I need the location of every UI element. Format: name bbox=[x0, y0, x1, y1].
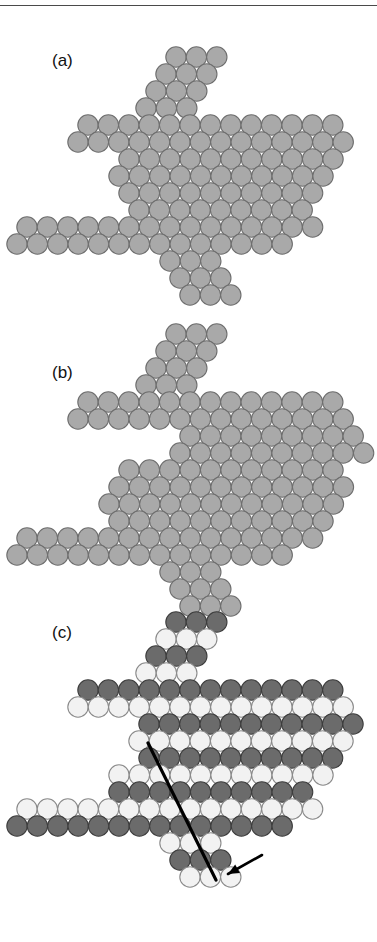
atom-circle bbox=[109, 234, 129, 254]
atom-circle bbox=[200, 285, 220, 305]
atom-circle bbox=[48, 545, 68, 565]
atom-circle bbox=[231, 234, 251, 254]
atom-circle bbox=[302, 528, 322, 548]
atom-circle bbox=[129, 409, 149, 429]
atom-circle bbox=[129, 816, 149, 836]
atom-circle bbox=[88, 132, 108, 152]
atom-circle bbox=[48, 234, 68, 254]
atom-circle bbox=[180, 867, 200, 887]
atom-circle bbox=[68, 545, 88, 565]
atom-circle bbox=[109, 816, 129, 836]
atom-circle bbox=[252, 234, 272, 254]
atom-circle bbox=[68, 816, 88, 836]
atom-circle bbox=[313, 765, 333, 785]
atom-circle bbox=[68, 409, 88, 429]
atom-circle bbox=[129, 234, 149, 254]
atom-circle bbox=[221, 285, 241, 305]
atom-circle bbox=[129, 545, 149, 565]
atom-circle bbox=[109, 697, 129, 717]
atom-group-a bbox=[7, 47, 354, 305]
atom-group-c bbox=[7, 612, 363, 887]
atom-circle bbox=[272, 234, 292, 254]
atom-circle bbox=[109, 409, 129, 429]
atom-circle bbox=[88, 234, 108, 254]
atom-circle bbox=[88, 816, 108, 836]
atom-circle bbox=[180, 285, 200, 305]
atom-circle bbox=[272, 545, 292, 565]
atom-circle bbox=[27, 816, 47, 836]
atom-circle bbox=[7, 816, 27, 836]
atom-circle bbox=[68, 697, 88, 717]
atom-circle bbox=[68, 234, 88, 254]
atom-circle bbox=[88, 545, 108, 565]
atom-circle bbox=[88, 697, 108, 717]
atom-circle bbox=[221, 596, 241, 616]
atom-lattice-canvas bbox=[0, 0, 377, 942]
atom-circle bbox=[302, 217, 322, 237]
atom-circle bbox=[48, 816, 68, 836]
atom-circle bbox=[252, 545, 272, 565]
atom-circle bbox=[109, 545, 129, 565]
atom-circle bbox=[252, 816, 272, 836]
atom-circle bbox=[231, 816, 251, 836]
atom-circle bbox=[231, 545, 251, 565]
atom-circle bbox=[149, 409, 169, 429]
atom-circle bbox=[302, 799, 322, 819]
atom-circle bbox=[353, 443, 373, 463]
figure-root: (a) (b) (c) bbox=[0, 0, 377, 942]
atom-circle bbox=[7, 545, 27, 565]
atom-circle bbox=[7, 234, 27, 254]
atom-circle bbox=[88, 409, 108, 429]
atom-circle bbox=[68, 132, 88, 152]
atom-circle bbox=[272, 816, 292, 836]
atom-circle bbox=[27, 545, 47, 565]
atom-circle bbox=[27, 234, 47, 254]
atom-group-b bbox=[7, 324, 374, 616]
